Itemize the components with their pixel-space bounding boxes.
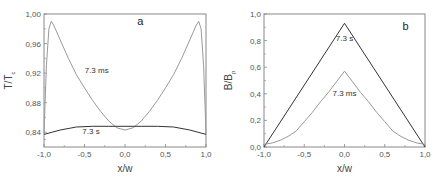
x-tick-label: 0,0: [339, 150, 351, 159]
x-tick-label: -0,5: [78, 150, 92, 159]
y-tick-label: 0,92: [25, 69, 41, 78]
y-tick-label: 0,4: [250, 90, 262, 99]
y-tick-label: 0,84: [25, 128, 41, 137]
series-annotation: 7.3 s: [82, 127, 99, 136]
y-tick-label: 0,2: [250, 116, 262, 125]
x-tick-label: -1,0: [37, 150, 51, 159]
panel-b-chart: -1,0-0,50,00,51,00,00,20,40,60,81,0x/wB/…: [223, 10, 431, 174]
y-tick-label: 0,8: [250, 37, 262, 46]
y-axis-label: B/Bp: [223, 70, 236, 90]
series-annotation: 7.3 ms: [85, 66, 109, 75]
series-annotation: 7.3 ms: [332, 89, 356, 98]
x-tick-label: 0,5: [379, 150, 391, 159]
x-axis-label: x/w: [118, 163, 134, 174]
panel-a-chart: -1,0-0,50,00,51,00,840,880,920,961,00x/w…: [3, 10, 212, 174]
y-tick-label: 0,0: [250, 143, 262, 152]
y-axis-label: T/Tc: [3, 72, 16, 90]
y-tick-label: 1,0: [250, 10, 262, 19]
y-tick-label: 0,96: [25, 40, 41, 49]
series-annotation: 7.3 s: [336, 34, 353, 43]
plot-frame: [44, 14, 206, 147]
x-tick-label: 0,0: [119, 150, 131, 159]
y-tick-label: 0,88: [25, 99, 41, 108]
y-tick-label: 0,6: [250, 63, 262, 72]
panel-label: a: [137, 15, 144, 27]
y-tick-label: 1,00: [25, 10, 41, 19]
x-axis-label: x/w: [337, 163, 353, 174]
series-line: [44, 21, 206, 133]
series-line: [264, 71, 425, 144]
figure: -1,0-0,50,00,51,00,840,880,920,961,00x/w…: [0, 0, 440, 181]
x-tick-label: 1,0: [200, 150, 212, 159]
x-tick-label: -0,5: [297, 150, 311, 159]
x-tick-label: 0,5: [160, 150, 172, 159]
x-tick-label: 1,0: [419, 150, 431, 159]
panel-label: b: [402, 20, 408, 32]
